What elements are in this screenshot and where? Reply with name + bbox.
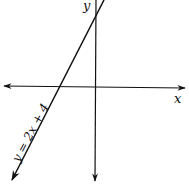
x-axis-label: x [174, 91, 182, 106]
graph-canvas: y x y = 2x + 4 [0, 0, 189, 187]
y-axis [95, 0, 96, 181]
x-axis [4, 86, 185, 88]
y-axis-label: y [82, 0, 91, 13]
coordinate-plane: y x y = 2x + 4 [0, 0, 189, 187]
line-equation-label: y = 2x + 4 [9, 101, 52, 165]
